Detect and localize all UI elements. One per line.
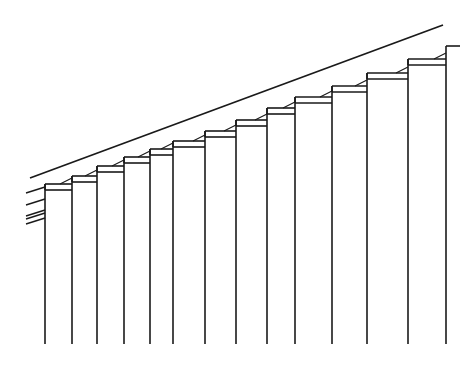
- pillar-line: [255, 114, 267, 120]
- pillar-line: [320, 91, 332, 97]
- pillar-line: [283, 102, 295, 108]
- pillar-line: [434, 53, 446, 59]
- stepped-pillars-diagram: [0, 0, 469, 368]
- pillar-lines: [45, 46, 460, 344]
- pillar-line: [60, 178, 72, 184]
- left-edge-ticks: [26, 187, 45, 224]
- pillar-line: [355, 80, 367, 86]
- pillar-line: [193, 135, 205, 141]
- pillar-line: [85, 170, 97, 176]
- pillar-line: [112, 160, 124, 166]
- pillar-line: [161, 143, 173, 149]
- pillar-line: [224, 125, 236, 131]
- pillar-line: [396, 67, 408, 73]
- pillar-line: [138, 151, 150, 157]
